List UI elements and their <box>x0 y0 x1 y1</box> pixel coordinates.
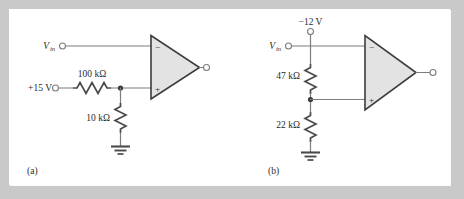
opamp-minus-sign-a: − <box>155 42 160 52</box>
vin-terminal-b[interactable] <box>286 43 292 49</box>
opamp-plus-sign-a: + <box>155 84 160 94</box>
vin-terminal-a[interactable] <box>60 43 66 49</box>
caption-a: (a) <box>27 166 38 177</box>
supply-terminal-a[interactable] <box>53 85 59 91</box>
resistor-100k-a <box>73 83 111 94</box>
circuit-b: − + V in −12 V 47 kΩ 22 kΩ (b) <box>268 17 436 177</box>
vin-label-sub-a: in <box>50 45 56 52</box>
output-terminal-a[interactable] <box>204 65 210 71</box>
supply-terminal-b[interactable] <box>308 29 314 35</box>
vin-label-sub-b: in <box>276 45 282 52</box>
opamp-plus-sign-b: + <box>369 95 374 105</box>
resistor-10k-label-a: 10 kΩ <box>86 113 110 123</box>
resistor-10k-a <box>115 103 126 133</box>
figure-root: − + V in +15 V 100 kΩ 10 kΩ (a) <box>0 0 464 199</box>
resistor-22k-b <box>305 112 316 142</box>
circuit-diagram: − + V in +15 V 100 kΩ 10 kΩ (a) <box>0 0 464 199</box>
resistor-100k-label-a: 100 kΩ <box>78 69 106 79</box>
resistor-47k-label-b: 47 kΩ <box>276 71 300 81</box>
ground-symbol-b <box>301 153 320 161</box>
supply-label-a: +15 V <box>28 83 52 93</box>
caption-b: (b) <box>268 166 279 177</box>
resistor-22k-label-b: 22 kΩ <box>276 120 300 130</box>
supply-label-b: −12 V <box>299 17 323 27</box>
circuit-a: − + V in +15 V 100 kΩ 10 kΩ (a) <box>27 36 210 178</box>
output-terminal-b[interactable] <box>430 70 436 76</box>
opamp-minus-sign-b: − <box>369 42 374 52</box>
resistor-47k-b <box>305 64 316 94</box>
ground-symbol-a <box>111 147 130 155</box>
